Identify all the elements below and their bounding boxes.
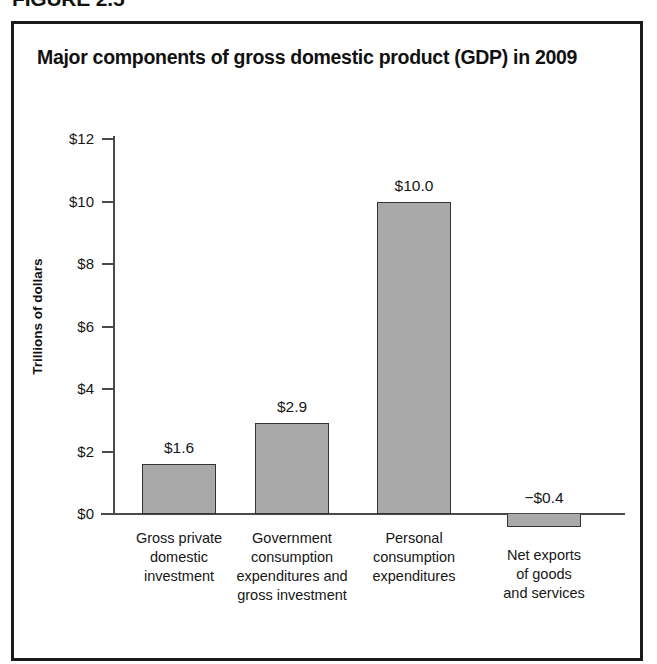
figure-number: FIGURE 2.5 bbox=[12, 0, 124, 11]
category-label-line: gross investment bbox=[237, 587, 347, 603]
figure-frame: Major components of gross domestic produ… bbox=[11, 21, 643, 661]
bar-value-label: −$0.4 bbox=[484, 489, 604, 507]
y-axis-tick bbox=[102, 138, 114, 140]
bar-value-label: $10.0 bbox=[354, 177, 474, 195]
category-label-line: domestic bbox=[150, 549, 208, 565]
y-axis-tick-label: $8 bbox=[34, 256, 94, 271]
category-label-line: of goods bbox=[516, 566, 572, 582]
category-label-line: consumption bbox=[373, 549, 455, 565]
category-label-line: Gross private bbox=[136, 530, 222, 546]
plot-area: Trillions of dollars $0$2$4$6$8$10$12 $1… bbox=[14, 24, 646, 664]
x-axis-category-label: Personalconsumptionexpenditures bbox=[339, 529, 489, 586]
y-axis-tick-label: $4 bbox=[34, 381, 94, 396]
y-axis-tick bbox=[102, 263, 114, 265]
bar[interactable] bbox=[142, 464, 216, 514]
x-axis-category-label: Net exportsof goodsand services bbox=[469, 546, 619, 603]
y-axis-tick-label: $12 bbox=[34, 131, 94, 146]
bar-value-label: $1.6 bbox=[119, 439, 239, 457]
bar-value-label: $2.9 bbox=[232, 398, 352, 416]
category-label-line: Personal bbox=[385, 530, 442, 546]
category-label-line: expenditures and bbox=[236, 568, 347, 584]
y-axis-tick bbox=[102, 326, 114, 328]
category-label-line: expenditures bbox=[372, 568, 455, 584]
category-label-line: consumption bbox=[251, 549, 333, 565]
bar[interactable] bbox=[377, 202, 451, 515]
y-axis-tick-label: $0 bbox=[34, 506, 94, 521]
y-axis-tick bbox=[102, 201, 114, 203]
category-label-line: Net exports bbox=[507, 547, 581, 563]
y-axis-tick-label: $2 bbox=[34, 444, 94, 459]
bar[interactable] bbox=[255, 423, 329, 514]
y-axis-tick bbox=[102, 513, 114, 515]
y-axis-tick-label: $10 bbox=[34, 194, 94, 209]
y-axis-tick-label: $6 bbox=[34, 319, 94, 334]
category-label-line: investment bbox=[144, 568, 214, 584]
y-axis-tick bbox=[102, 451, 114, 453]
category-label-line: and services bbox=[503, 585, 584, 601]
bar[interactable] bbox=[507, 514, 581, 527]
category-label-line: Government bbox=[252, 530, 332, 546]
y-axis-tick bbox=[102, 388, 114, 390]
